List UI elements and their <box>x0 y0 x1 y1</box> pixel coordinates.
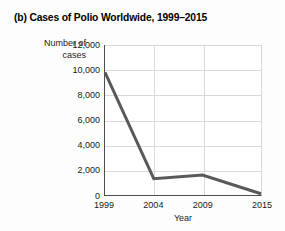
y-tick-label: 4,000 <box>56 141 100 150</box>
y-tick-label: 8,000 <box>56 91 100 100</box>
x-tick-label: 2004 <box>133 200 173 210</box>
y-tick-label: 6,000 <box>56 116 100 125</box>
y-tick-label: 2,000 <box>56 166 100 175</box>
data-series-line <box>105 45 261 195</box>
x-axis-title: Year <box>104 213 262 223</box>
data-series-polyline <box>105 72 261 193</box>
plot-area <box>104 45 262 196</box>
y-tick-label: 12,000 <box>56 41 100 50</box>
x-tick-label: 2009 <box>183 200 223 210</box>
x-tick-label-group: 1999200420092015 <box>0 200 285 214</box>
x-tick-label: 1999 <box>84 200 124 210</box>
x-tick-label: 2015 <box>242 200 282 210</box>
chart-title: (b) Cases of Polio Worldwide, 1999–2015 <box>14 12 207 23</box>
y-tick-label: 10,000 <box>56 66 100 75</box>
y-tick-label-group: 02,0004,0006,0008,00010,00012,000 <box>52 0 100 231</box>
chart-figure: (b) Cases of Polio Worldwide, 1999–2015 … <box>0 0 285 231</box>
